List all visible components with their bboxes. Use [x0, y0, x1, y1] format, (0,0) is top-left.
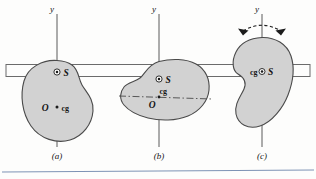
panel-c-cg-label: cg — [250, 68, 258, 77]
panel-c-body — [233, 37, 293, 127]
panel-b-s-label: S — [166, 75, 171, 85]
panel-c-caption: (c) — [257, 151, 267, 161]
panel-c-y-label: y — [254, 4, 259, 14]
panel-c-s-label: S — [268, 67, 273, 77]
rotation-arrow-left-head — [238, 29, 249, 36]
panel-b-cg-label: cg — [160, 87, 168, 96]
figure-diagram: y S O cg (a) y S cg O (b) — [0, 0, 316, 179]
panel-b-o-label: O — [149, 100, 156, 110]
panel-a-o-label: O — [42, 103, 49, 113]
panel-a-s-label: S — [64, 68, 69, 78]
panel-a-caption: (a) — [52, 151, 63, 161]
panel-a: y S O cg (a) — [22, 4, 93, 161]
panel-a-cg-marker — [56, 106, 59, 109]
panel-a-y-label: y — [49, 4, 54, 14]
rotation-arrow-right-head — [276, 29, 287, 36]
panel-b: y S cg O (b) — [119, 4, 212, 161]
panel-a-suspension-marker — [54, 69, 60, 75]
panel-b-suspension-marker — [156, 76, 162, 82]
bottom-rule — [2, 170, 314, 172]
panel-c-suspension-marker — [259, 69, 265, 75]
figure-container: y S O cg (a) y S cg O (b) — [0, 0, 316, 179]
panel-b-cg-marker — [158, 96, 161, 99]
panel-c: y cg S (c) — [233, 4, 293, 161]
panel-a-cg-label: cg — [62, 104, 70, 113]
panel-b-caption: (b) — [154, 151, 165, 161]
panel-b-y-label: y — [151, 4, 156, 14]
